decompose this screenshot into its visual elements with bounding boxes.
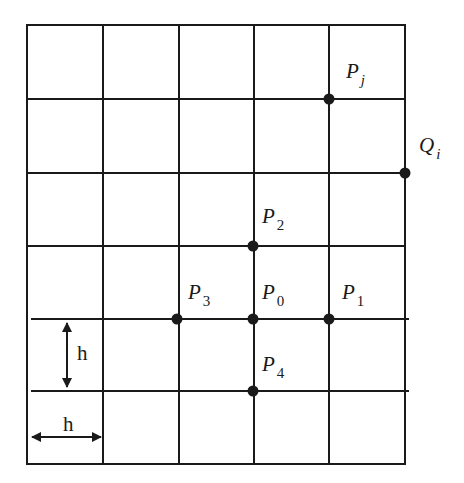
point-p4 <box>248 386 259 397</box>
point-p2 <box>248 241 259 252</box>
label-p3: P3 <box>188 282 210 303</box>
vertical-spacing-label: h <box>77 343 88 364</box>
point-p1 <box>324 314 335 325</box>
grid-border <box>27 25 405 464</box>
label-pj: Pj <box>346 61 365 82</box>
grid-lines <box>27 25 409 464</box>
point-p3 <box>172 314 183 325</box>
point-p0 <box>248 314 259 325</box>
point-pj <box>324 94 335 105</box>
horizontal-spacing-label: h <box>63 414 74 435</box>
label-p2: P2 <box>262 206 284 227</box>
label-p4: P4 <box>262 354 284 375</box>
label-qi: Qi <box>419 135 440 156</box>
grid-diagram <box>0 0 464 483</box>
label-p1: P1 <box>342 282 364 303</box>
label-p0: P0 <box>262 282 284 303</box>
point-qi <box>400 168 411 179</box>
